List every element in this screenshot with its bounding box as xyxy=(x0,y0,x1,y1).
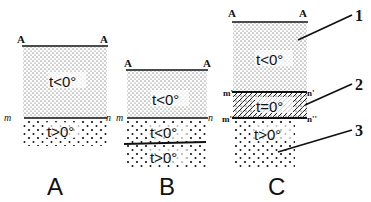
surface-label-right: A xyxy=(203,57,211,69)
panel-c: A A m' n' m'' n'' t<0° t=0° t>0° 1 2 3 C xyxy=(222,7,363,200)
boundary-label-m-double-prime: m'' xyxy=(222,114,235,124)
boundary-label-m: m xyxy=(4,112,11,123)
boundary-label-n: n xyxy=(106,112,111,123)
panel-caption-b: B xyxy=(159,173,175,200)
layer-label: t<0° xyxy=(49,73,76,90)
callout-number-1: 1 xyxy=(355,7,363,24)
boundary-label-m: m xyxy=(116,112,123,123)
surface-label-left: A xyxy=(17,33,25,45)
layer-label: t>0° xyxy=(47,123,74,140)
layer-label: t<0° xyxy=(150,124,177,141)
panel-caption-a: A xyxy=(47,173,63,200)
boundary-label-n: n xyxy=(208,112,213,123)
boundary-label-m-prime: m' xyxy=(223,88,233,98)
surface-label-left: A xyxy=(124,57,132,69)
surface-label-left: A xyxy=(228,7,236,19)
permafrost-diagram: A A m n t<0° t>0° A A A m n t<0° t<0° t>… xyxy=(0,0,371,202)
boundary-label-n-double-prime: n'' xyxy=(307,114,317,124)
surface-label-right: A xyxy=(100,33,108,45)
callout-number-3: 3 xyxy=(355,122,363,139)
panel-a: A A m n t<0° t>0° A xyxy=(4,33,111,200)
layer-label: t<0° xyxy=(256,51,283,68)
callout-number-2: 2 xyxy=(355,76,363,93)
layer-label: t<0° xyxy=(152,91,179,108)
panel-b: A A m n t<0° t<0° t>0° B xyxy=(116,57,213,200)
surface-label-right: A xyxy=(299,7,307,19)
layer-label: t>0° xyxy=(254,126,281,143)
boundary-label-n-prime: n' xyxy=(307,88,315,98)
layer-label: t=0° xyxy=(256,98,283,115)
panel-caption-c: C xyxy=(268,173,285,200)
layer-label: t>0° xyxy=(150,149,177,166)
